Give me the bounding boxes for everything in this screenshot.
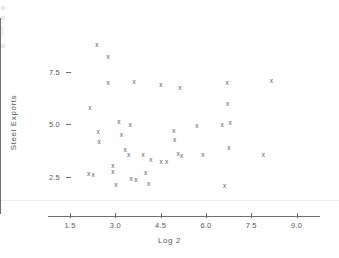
data-point-marker: x bbox=[148, 156, 154, 163]
y-tick-label: 2.5 bbox=[38, 172, 60, 181]
scan-artifact bbox=[1, 26, 4, 36]
data-point-marker: x bbox=[110, 168, 116, 175]
data-point-marker: x bbox=[146, 180, 152, 187]
x-axis-line bbox=[48, 216, 320, 217]
data-point-marker: x bbox=[133, 176, 139, 183]
data-point-marker: x bbox=[164, 158, 170, 165]
x-tick-mark bbox=[161, 213, 162, 218]
data-point-marker: x bbox=[225, 100, 231, 107]
scan-artifact bbox=[1, 44, 5, 48]
data-point-marker: x bbox=[227, 119, 233, 126]
data-point-marker: x bbox=[94, 41, 100, 48]
y-tick-mark bbox=[66, 177, 71, 178]
y-axis-label: Steel Exports bbox=[9, 78, 18, 168]
data-point-marker: x bbox=[90, 171, 96, 178]
x-tick-label: 7.5 bbox=[246, 221, 257, 230]
data-point-marker: x bbox=[260, 151, 266, 158]
data-point-marker: x bbox=[127, 121, 133, 128]
data-point-marker: x bbox=[118, 131, 124, 138]
data-point-marker: x bbox=[158, 81, 164, 88]
data-point-marker: x bbox=[194, 122, 200, 129]
scan-artifact bbox=[1, 6, 5, 10]
data-point-marker: x bbox=[268, 77, 274, 84]
scatter-plot-figure: 1.53.04.56.07.59.0 2.55.07.5 xxxxxxxxxxx… bbox=[0, 0, 339, 258]
data-point-marker: x bbox=[222, 182, 228, 189]
data-point-marker: x bbox=[200, 151, 206, 158]
x-tick-mark bbox=[115, 213, 116, 218]
x-tick-label: 1.5 bbox=[64, 221, 75, 230]
data-point-marker: x bbox=[131, 78, 137, 85]
data-point-marker: x bbox=[224, 79, 230, 86]
data-point-marker: x bbox=[87, 104, 93, 111]
data-point-marker: x bbox=[105, 79, 111, 86]
data-point-marker: x bbox=[95, 128, 101, 135]
data-point-marker: x bbox=[113, 181, 119, 188]
x-tick-mark bbox=[70, 213, 71, 218]
data-point-marker: x bbox=[179, 152, 185, 159]
data-point-marker: x bbox=[171, 127, 177, 134]
y-axis-line bbox=[0, 18, 1, 214]
x-tick-mark bbox=[206, 213, 207, 218]
y-tick-mark bbox=[66, 124, 71, 125]
y-tick-label: 7.5 bbox=[38, 68, 60, 77]
scan-artifact-line bbox=[0, 200, 339, 201]
data-point-marker: x bbox=[172, 136, 178, 143]
x-axis-label: Log 2 bbox=[0, 236, 339, 245]
data-point-marker: x bbox=[116, 118, 122, 125]
x-tick-label: 3.0 bbox=[110, 221, 121, 230]
x-tick-mark bbox=[297, 213, 298, 218]
data-point-marker: x bbox=[177, 84, 183, 91]
scan-artifact bbox=[1, 16, 5, 20]
x-tick-label: 9.0 bbox=[291, 221, 302, 230]
y-tick-label: 5.0 bbox=[38, 120, 60, 129]
y-tick-mark bbox=[66, 72, 71, 73]
x-tick-label: 4.5 bbox=[155, 221, 166, 230]
data-point-marker: x bbox=[126, 151, 132, 158]
data-point-marker: x bbox=[96, 138, 102, 145]
x-tick-label: 6.0 bbox=[200, 221, 211, 230]
data-point-marker: x bbox=[219, 121, 225, 128]
data-point-marker: x bbox=[226, 144, 232, 151]
data-point-marker: x bbox=[143, 169, 149, 176]
x-tick-mark bbox=[251, 213, 252, 218]
data-point-marker: x bbox=[105, 53, 111, 60]
data-point-marker: x bbox=[140, 151, 146, 158]
